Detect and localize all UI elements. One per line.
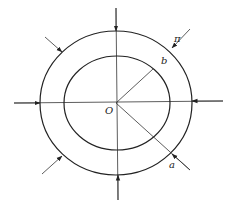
radius-b-line (116, 69, 153, 103)
origin-label: O (105, 105, 113, 116)
outer-radius-label: a (169, 159, 175, 170)
arrow-bottom-left-icon (42, 156, 62, 174)
arrow-top-left-icon (45, 37, 62, 52)
pressure-label: π (173, 33, 181, 44)
thick-walled-cylinder-diagram: O b a π (0, 0, 233, 211)
inner-radius-label: b (161, 55, 167, 66)
